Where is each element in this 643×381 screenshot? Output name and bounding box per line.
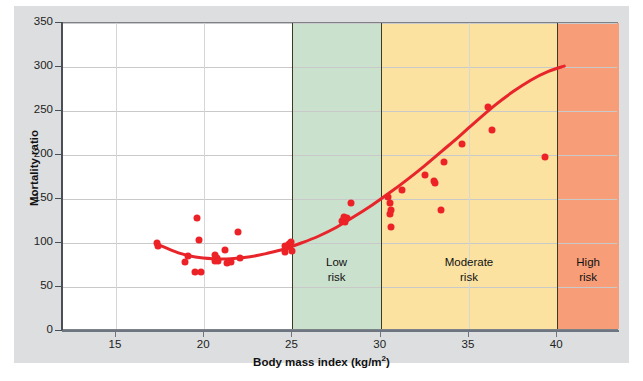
y-tick-mark — [55, 110, 62, 111]
x-tick-mark — [380, 332, 381, 337]
data-point — [227, 259, 234, 266]
data-point — [388, 224, 395, 231]
data-point — [485, 103, 492, 110]
y-tick-label: 100 — [34, 236, 53, 248]
data-point — [441, 159, 448, 166]
x-tick-label: 15 — [109, 339, 122, 351]
x-tick-mark — [291, 332, 292, 337]
y-tick-mark — [55, 22, 62, 23]
x-tick-mark — [115, 332, 116, 337]
x-tick-label: 25 — [285, 339, 298, 351]
data-point — [432, 180, 439, 187]
y-tick-label: 0 — [47, 324, 53, 336]
y-axis-title: Mortality ratio — [28, 130, 40, 206]
data-point — [289, 247, 296, 254]
x-axis-title-text: Body mass index (kg/m2) — [253, 356, 390, 368]
data-point — [222, 247, 229, 254]
y-tick-mark — [55, 198, 62, 199]
data-point — [197, 269, 204, 276]
x-tick-label: 40 — [550, 339, 563, 351]
fitted-trend-curve — [63, 23, 619, 331]
y-tick-mark — [55, 330, 62, 331]
x-tick-mark — [556, 332, 557, 337]
data-point — [344, 215, 351, 222]
x-axis-title: Body mass index (kg/m2) — [14, 354, 629, 368]
y-tick-label: 350 — [34, 16, 53, 28]
y-axis-line — [61, 22, 63, 331]
data-point — [386, 199, 393, 206]
data-point — [236, 254, 243, 261]
data-point — [488, 127, 495, 134]
y-tick-mark — [55, 66, 62, 67]
x-tick-label: 20 — [197, 339, 210, 351]
y-tick-label: 300 — [34, 60, 53, 72]
data-point — [155, 242, 162, 249]
x-tick-label: 30 — [373, 339, 386, 351]
y-tick-mark — [55, 242, 62, 243]
plot-area: LowriskModerateriskHighrisk — [62, 22, 618, 330]
data-point — [194, 215, 201, 222]
data-point — [398, 187, 405, 194]
data-point — [421, 172, 428, 179]
data-point — [185, 253, 192, 260]
x-axis-line — [62, 330, 619, 332]
x-tick-label: 35 — [462, 339, 475, 351]
data-point — [437, 206, 444, 213]
data-point — [541, 153, 548, 160]
data-point — [234, 229, 241, 236]
y-tick-label: 250 — [34, 104, 53, 116]
data-point — [386, 210, 393, 217]
data-point — [347, 199, 354, 206]
y-tick-mark — [55, 286, 62, 287]
data-point — [458, 141, 465, 148]
x-tick-mark — [203, 332, 204, 337]
y-tick-label: 50 — [40, 280, 53, 292]
x-tick-mark — [468, 332, 469, 337]
data-point — [282, 248, 289, 255]
data-point — [181, 259, 188, 266]
data-point — [215, 258, 222, 265]
figure-panel: LowriskModerateriskHighrisk 050100150200… — [14, 6, 629, 363]
y-tick-mark — [55, 154, 62, 155]
data-point — [287, 239, 294, 246]
trend-line — [157, 66, 565, 259]
data-point — [195, 237, 202, 244]
